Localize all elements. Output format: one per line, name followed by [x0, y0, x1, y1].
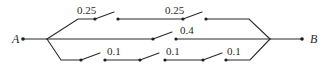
top-branch: 0.25 0.25 — [47, 4, 270, 39]
terminal-b-node — [300, 37, 304, 41]
top-branch-in-wire — [47, 19, 95, 39]
switch-blade — [203, 53, 222, 60]
switch-label: 0.1 — [107, 45, 121, 57]
middle-branch: 0.4 — [47, 24, 270, 41]
terminal-b-label: B — [310, 32, 318, 46]
switch-label: 0.25 — [165, 4, 185, 16]
circuit-svg: A 0.25 0.25 0.4 — [0, 0, 324, 72]
terminal-a-label: A — [11, 32, 20, 46]
bottom-branch-in-wire — [47, 39, 81, 60]
bottom-branch: 0.1 0.1 0.1 — [47, 39, 270, 62]
switch-blade — [95, 12, 114, 19]
switch-blade — [183, 12, 202, 19]
switch-network-diagram: A 0.25 0.25 0.4 — [0, 0, 324, 72]
switch-blade — [81, 53, 100, 60]
switch-label: 0.1 — [166, 45, 180, 57]
switch-label: 0.25 — [77, 4, 97, 16]
switch-label: 0.1 — [227, 45, 241, 57]
switch-blade — [140, 53, 159, 60]
top-branch-out-wire — [206, 19, 270, 39]
switch-blade — [153, 32, 172, 39]
switch-label: 0.4 — [180, 24, 194, 36]
